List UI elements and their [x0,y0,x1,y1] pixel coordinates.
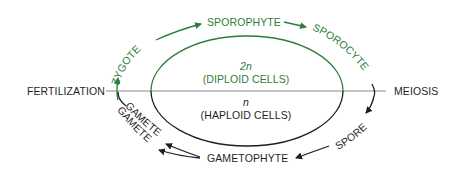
stage-zygote-text: ZYGOTE [109,42,143,86]
diploid-cells-label: (DIPLOID CELLS) [203,73,290,85]
arrow-spore-to-gametophyte [296,146,329,158]
stage-sporocyte-text: SPOROCYTE [311,21,371,72]
stage-sporophyte: SPOROPHYTE [207,16,281,28]
stage-spore-text: SPORE [333,120,369,151]
arrow-zygote-to-sporophyte [156,24,201,40]
arrow-sporocyte-to-meiosis [372,84,375,96]
arrow-meiosis-to-spore [366,96,374,113]
arrow-gametophyte-to-gamete-2 [159,150,200,158]
stage-gametophyte: GAMETOPHYTE [207,152,288,164]
stage-spore: SPORE [333,120,369,151]
diploid-ploidy: 2n [239,60,252,72]
haploid-cells-label: (HAPLOID CELLS) [201,109,292,121]
life-cycle-diagram: FERTILIZATION MEIOSIS 2n (DIPLOID CELLS)… [0,0,457,174]
fertilization-label: FERTILIZATION [27,85,105,97]
haploid-ploidy: n [243,96,249,108]
arrow-sporophyte-to-sporocyte [284,22,306,27]
meiosis-label: MEIOSIS [394,85,438,97]
arrow-gametophyte-to-gamete-1 [166,144,200,157]
stage-sporocyte: SPOROCYTE [311,21,371,72]
stage-zygote: ZYGOTE [109,42,143,86]
